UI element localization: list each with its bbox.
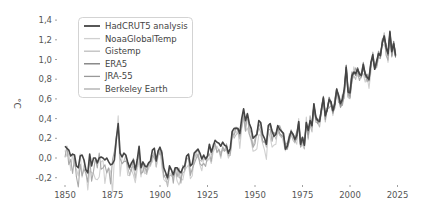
y-tick-label: 0,6: [38, 94, 52, 104]
chart-container: -0,20,00,20,40,60,81,01,21,4 18501875190…: [0, 0, 427, 213]
x-tick-label: 1975: [292, 190, 314, 200]
x-tick-label: 2000: [339, 190, 361, 200]
legend-label: HadCRUT5 analysis: [105, 21, 188, 31]
x-axis: 18501875190019251950197520002025: [54, 185, 408, 200]
y-tick-label: 0,2: [38, 133, 52, 143]
legend-label: ERA5: [105, 59, 127, 69]
y-tick-label: -0,2: [35, 173, 52, 183]
legend-label: NoaaGlobalTemp: [105, 34, 177, 44]
x-tick-label: 1900: [149, 190, 171, 200]
temperature-chart: -0,20,00,20,40,60,81,01,21,4 18501875190…: [0, 0, 427, 213]
x-tick-label: 1950: [244, 190, 266, 200]
y-tick-label: 0,0: [38, 153, 52, 163]
legend: HadCRUT5 analysisNoaaGlobalTempGistempER…: [79, 18, 193, 98]
y-tick-label: 0,4: [38, 114, 52, 124]
series-line-jra-55: [270, 35, 395, 150]
y-tick-label: 1,4: [38, 15, 52, 25]
legend-label: Gistemp: [105, 46, 141, 56]
x-tick-label: 1925: [197, 190, 219, 200]
y-axis-unit-label: °C: [12, 98, 22, 109]
x-tick-label: 1850: [54, 190, 76, 200]
y-tick-label: 1,2: [38, 35, 52, 45]
y-tick-label: 1,0: [38, 55, 52, 65]
x-tick-label: 2025: [387, 190, 409, 200]
y-tick-label: 0,8: [38, 74, 52, 84]
legend-label: Berkeley Earth: [105, 84, 168, 94]
y-axis: -0,20,00,20,40,60,81,01,21,4: [35, 15, 57, 183]
legend-label: JRA-55: [104, 71, 133, 81]
